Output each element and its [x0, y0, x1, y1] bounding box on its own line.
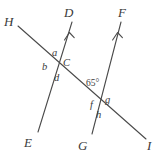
angle-label-a: a: [52, 48, 57, 59]
transversal-line-HI: [18, 26, 146, 139]
angle-label-g: g: [105, 95, 110, 106]
point-label-G: G: [78, 139, 87, 152]
angle-label-h: h: [96, 110, 101, 121]
parallel-arrow-marker-ed: [65, 33, 75, 41]
vertex-label-C: C: [63, 58, 70, 69]
geometry-diagram: H D F E G I a b C d 65° f g h: [0, 0, 158, 159]
angle-label-b: b: [42, 62, 47, 73]
angle-label-d: d: [54, 73, 59, 84]
angle-label-f: f: [90, 100, 93, 111]
point-label-F: F: [118, 6, 126, 19]
point-label-I: I: [147, 139, 151, 152]
angle-measure-65: 65°: [86, 79, 99, 89]
point-label-E: E: [24, 136, 32, 149]
point-label-D: D: [64, 6, 73, 19]
point-label-H: H: [4, 15, 13, 28]
